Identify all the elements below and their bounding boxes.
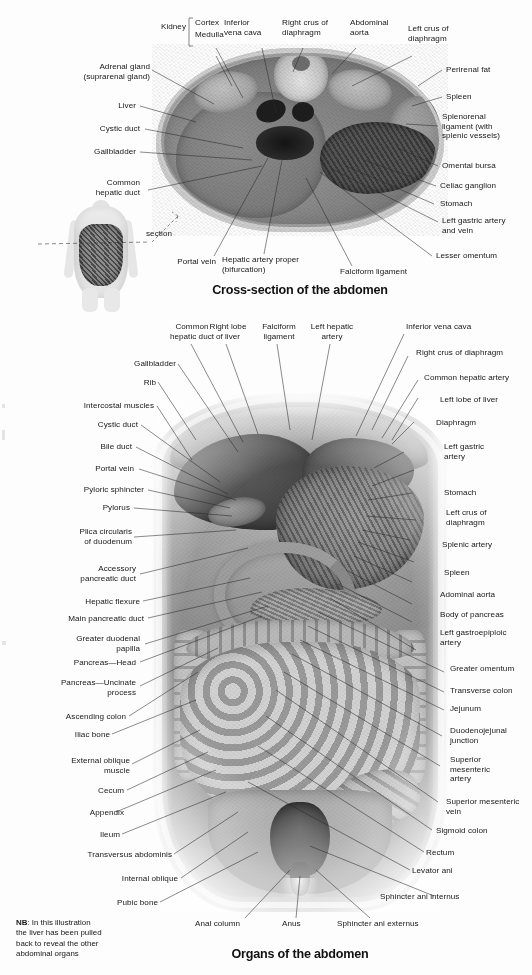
label2-portal-vein: Portal vein (62, 464, 134, 474)
scan-artifact (2, 430, 5, 440)
label2-anus: Anus (282, 919, 326, 929)
label2-appendix: Appendix (56, 808, 124, 818)
label2-ileum: Ileum (68, 830, 120, 840)
label-hepatic-artery-proper: Hepatic artery proper (bifurcation) (222, 255, 332, 274)
label-left-gastric-artery-and-vein: Left gastric artery and vein (442, 216, 532, 235)
figure-2-caption: Organs of the abdomen (152, 947, 448, 961)
label2-external-oblique-muscle: External oblique muscle (40, 756, 130, 775)
label-omental-bursa: Omental bursa (442, 161, 532, 171)
label-liver: Liver (72, 101, 136, 111)
label2-bile-duct: Bile duct (68, 442, 132, 452)
label2-sphincter-ani-internus: Sphincter ani internus (380, 892, 504, 902)
label-lesser-omentum: Lesser omentum (436, 251, 530, 261)
label2-pancreas-head: Pancreas—Head (40, 658, 136, 668)
label2-right-crus-of-diaphragm: Right crus of diaphragm (416, 348, 532, 358)
label-celiac-ganglion: Celiac ganglion (440, 181, 532, 191)
label-left-crus-of-diaphragm: Left crus of diaphragm (408, 24, 484, 43)
anatomy-plate-page: Kidney Cortex Medulla Inferior vena cava… (0, 0, 532, 975)
label2-inferior-vena-cava: Inferior vena cava (406, 322, 506, 332)
label2-left-hepatic-artery: Left hepatic artery (300, 322, 364, 341)
label2-transversus-abdominis: Transversus abdominis (56, 850, 172, 860)
label-cystic-duct: Cystic duct (48, 124, 140, 134)
label2-accessory-pancreatic-duct: Accessory pancreatic duct (42, 564, 136, 583)
figure-1-caption: Cross-section of the abdomen (152, 283, 448, 297)
label2-rib: Rib (112, 378, 156, 388)
label2-rectum: Rectum (426, 848, 484, 858)
label2-plica-circularis: Plica circularis of duodenum (48, 527, 132, 546)
label2-left-lobe-of-liver: Left lobe of liver (440, 395, 532, 405)
label2-cecum: Cecum (62, 786, 124, 796)
label2-spleen: Spleen (444, 568, 500, 578)
label2-body-of-pancreas: Body of pancreas (440, 610, 532, 620)
label-gallbladder: Gallbladder (44, 147, 136, 157)
label2-sigmoid-colon: Sigmoid colon (436, 826, 524, 836)
label-kidney: Kidney (104, 22, 186, 32)
cross-section-illustration (152, 44, 448, 236)
label2-levator-ani: Levator ani (412, 866, 482, 876)
scan-artifact (2, 404, 5, 408)
body-orientation-figure (52, 200, 150, 312)
label2-stomach: Stomach (444, 488, 506, 498)
label2-ascending-colon: Ascending colon (34, 712, 126, 722)
label2-superior-mesenteric-vein: Superior mesenteric vein (446, 797, 532, 816)
label2-gallbladder: Gallbladder (96, 359, 176, 369)
nb-text: : In this illustration the liver has bee… (16, 918, 102, 958)
label2-adominal-aorta: Adominal aorta (440, 590, 528, 600)
label2-pylorus: Pylorus (72, 503, 130, 513)
label2-hepatic-flexure: Hepatic flexure (52, 597, 140, 607)
label2-duodenojejunal-junction: Duodenojejunal junction (450, 726, 532, 745)
label2-jejunum: Jejunum (450, 704, 512, 714)
label2-common-hepatic-artery: Common hepatic artery (424, 373, 532, 383)
label2-pubic-bone: Pubic bone (92, 898, 158, 908)
label2-cystic-duct: Cystic duct (72, 420, 138, 430)
label2-anal-column: Anal column (195, 919, 267, 929)
label2-transverse-colon: Transverse colon (450, 686, 532, 696)
label2-superior-mesenteric-artery: Superior mesenteric artery (450, 755, 512, 784)
label2-pancreas-uncinate-process: Pancreas—Uncinate process (24, 678, 136, 697)
label2-diaphragm: Diaphragm (436, 418, 506, 428)
label2-splenic-artery: Splenic artery (442, 540, 528, 550)
label2-iliac-bone: Iliac bone (44, 730, 110, 740)
label-adrenal-gland: Adrenal gland (suprarenal gland) (30, 62, 150, 81)
label2-main-pancreatic-duct: Main pancreatic duct (28, 614, 144, 624)
label2-sphincter-ani-externus: Sphincter ani externus (337, 919, 467, 929)
nb-note: NB: In this illustration the liver has b… (16, 918, 146, 960)
scan-artifact (2, 641, 6, 645)
label-spleen: Spleen (446, 92, 506, 102)
label-section: section (146, 229, 190, 239)
label2-intercostal-muscles: Intercostal muscles (50, 401, 154, 411)
label-common-hepatic-duct: Common hepatic duct (52, 178, 140, 197)
label2-greater-duodenal-papilla: Greater duodenal papilla (44, 634, 140, 653)
label2-left-gastroepiploic-artery: Left gastroepiploic artery (440, 628, 532, 647)
label-splenorenal-ligament: Splenorenal ligament (with splenic vesse… (442, 112, 532, 141)
label-falciform-ligament: Falciform ligament (340, 267, 440, 277)
label2-pyloric-sphincter: Pyloric sphincter (40, 485, 144, 495)
label2-greater-omentum: Greater omentum (450, 664, 532, 674)
nb-prefix: NB (16, 918, 27, 927)
label2-internal-oblique: Internal oblique (86, 874, 178, 884)
label-portal-vein: Portal vein (158, 257, 216, 267)
organs-illustration (152, 392, 448, 912)
label2-left-gastric-artery: Left gastric artery (444, 442, 506, 461)
label-perirenal-fat: Perirenal fat (446, 65, 532, 75)
label-stomach: Stomach (440, 199, 510, 209)
label2-left-crus-of-diaphragm: Left crus of diaphragm (446, 508, 518, 527)
